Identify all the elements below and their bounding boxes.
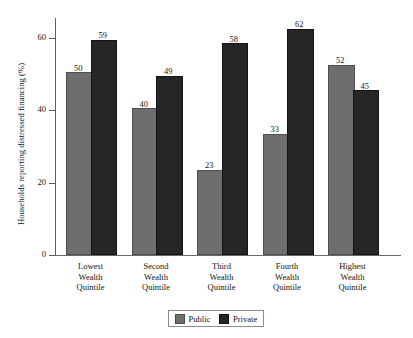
bar-private-3 bbox=[222, 43, 249, 255]
x-axis-category-label: SecondWealthQuintile bbox=[122, 261, 190, 293]
x-axis-category-label: LowestWealthQuintile bbox=[57, 261, 125, 293]
bar-value-label: 59 bbox=[99, 31, 107, 40]
bar-value-label: 45 bbox=[361, 82, 369, 91]
y-axis-title: Households reporting distressed financin… bbox=[14, 16, 28, 272]
bar-public-4 bbox=[263, 134, 290, 255]
bar-value-label: 62 bbox=[295, 20, 303, 29]
y-tick-label: 40 bbox=[16, 104, 46, 114]
y-tick-label: 20 bbox=[16, 177, 46, 187]
bar-public-5 bbox=[328, 65, 355, 255]
bar-value-label: 33 bbox=[271, 125, 279, 134]
bar-private-1 bbox=[91, 40, 118, 255]
y-tick-mark bbox=[49, 110, 55, 111]
legend-swatch-public-icon bbox=[175, 314, 185, 324]
y-tick-mark bbox=[49, 255, 55, 256]
bar-private-2 bbox=[156, 76, 183, 255]
x-axis-category-label: HighestWealthQuintile bbox=[319, 261, 387, 293]
legend-item-public: Public bbox=[175, 314, 210, 324]
bar-private-5 bbox=[353, 90, 380, 255]
bar-private-4 bbox=[287, 29, 314, 255]
bar-value-label: 50 bbox=[74, 64, 82, 73]
legend-label: Public bbox=[189, 314, 211, 324]
legend-label: Private bbox=[233, 314, 257, 324]
y-tick-mark bbox=[49, 183, 55, 184]
bar-value-label: 58 bbox=[230, 35, 238, 44]
legend-swatch-private-icon bbox=[219, 314, 229, 324]
bar-public-1 bbox=[66, 72, 93, 255]
bar-value-label: 40 bbox=[140, 100, 148, 109]
bar-value-label: 23 bbox=[205, 161, 213, 170]
y-tick-label: 0 bbox=[16, 249, 46, 259]
legend-item-private: Private bbox=[219, 314, 257, 324]
x-axis-category-label: ThirdWealthQuintile bbox=[188, 261, 256, 293]
bar-public-3 bbox=[197, 170, 224, 255]
x-axis-line bbox=[55, 255, 401, 256]
bar-value-label: 52 bbox=[336, 56, 344, 65]
plot-area: 50594049235833625245 bbox=[56, 18, 402, 255]
y-tick-label: 60 bbox=[16, 32, 46, 42]
legend: PublicPrivate bbox=[168, 310, 264, 327]
y-tick-mark bbox=[49, 38, 55, 39]
bar-public-2 bbox=[132, 108, 159, 255]
bar-value-label: 49 bbox=[164, 67, 172, 76]
bar-chart: Households reporting distressed financin… bbox=[0, 0, 413, 338]
x-axis-category-label: FourthWealthQuintile bbox=[253, 261, 321, 293]
